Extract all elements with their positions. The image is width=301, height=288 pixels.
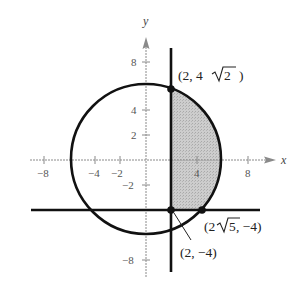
svg-text:2: 2	[224, 68, 231, 83]
label-right-intersection: (2 5 , −4)	[204, 218, 262, 234]
svg-text:, −4): , −4)	[236, 219, 262, 234]
x-tick-label: 4	[194, 167, 200, 179]
y-tick-label: −8	[122, 254, 134, 266]
y-tick-label: −2	[122, 179, 134, 191]
x-tick-label: −8	[37, 167, 49, 179]
svg-text:): )	[239, 68, 244, 83]
svg-text:(2: (2	[204, 219, 215, 234]
x-tick-label: −4	[88, 167, 100, 179]
point-top-intersection	[167, 85, 175, 93]
x-axis	[30, 156, 276, 164]
svg-text:(2, 4: (2, 4	[178, 68, 203, 83]
graph: x y −8 −4 −2 4 8 8 4 2 −2 −8 (2, 4 2 ) (…	[0, 0, 301, 288]
y-tick-label: 8	[131, 56, 137, 68]
y-tick-label: 2	[131, 129, 137, 141]
svg-text:5: 5	[229, 219, 236, 234]
point-right-intersection	[198, 206, 206, 214]
y-axis-label: y	[142, 14, 149, 28]
point-corner-intersection	[167, 206, 175, 214]
x-tick-label: −2	[111, 167, 123, 179]
y-axis	[142, 37, 150, 278]
x-tick-label: 8	[245, 167, 251, 179]
label-corner-intersection: (2, −4)	[180, 245, 217, 260]
label-top-intersection: (2, 4 2 )	[178, 67, 244, 83]
x-axis-label: x	[280, 153, 287, 167]
y-tick-label: 4	[131, 104, 137, 116]
